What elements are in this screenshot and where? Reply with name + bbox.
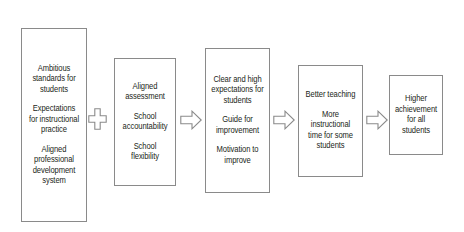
text-line: Higher	[392, 94, 440, 105]
text-line: Aligned	[24, 145, 84, 156]
text-line: Clear and high	[208, 75, 267, 86]
node-body: Ambitious standards for students Expecta…	[22, 64, 86, 187]
text-line: system	[24, 176, 84, 187]
text-group: School flexibility	[115, 142, 175, 163]
diagram-canvas: Ambitious standards for students Expecta…	[0, 0, 464, 232]
text-group: School accountability	[115, 112, 175, 133]
text-group: Aligned assessment	[115, 82, 175, 103]
arrow-connector-right-3	[366, 110, 388, 130]
clear-expectations-box: Clear and high expectations for students…	[205, 48, 270, 193]
text-line: students	[392, 126, 440, 137]
node-body: Higher achievement for all students	[390, 94, 442, 136]
text-line: practice	[24, 125, 84, 136]
node-body: Aligned assessment School accountability…	[115, 82, 175, 163]
text-line: accountability	[117, 122, 173, 133]
text-line: instructional	[301, 120, 360, 131]
text-line: achievement	[392, 105, 440, 116]
text-group: Motivation to improve	[206, 145, 269, 166]
node-body: Clear and high expectations for students…	[206, 75, 269, 167]
plus-connector	[88, 108, 107, 130]
text-group: Expectations for instructional practice	[22, 104, 86, 136]
text-line: Motivation to	[208, 145, 267, 156]
text-line: Better teaching	[301, 90, 360, 101]
text-group: Ambitious standards for students	[22, 64, 86, 96]
text-group: Clear and high expectations for students	[206, 75, 269, 107]
text-line: students	[208, 96, 267, 107]
text-line: expectations for	[208, 85, 267, 96]
text-line: for instructional	[24, 115, 84, 126]
text-line: Guide for	[208, 115, 267, 126]
text-line: School	[117, 112, 173, 123]
text-line: time for some	[301, 131, 360, 142]
text-line: standards for	[24, 74, 84, 85]
text-line: development	[24, 166, 84, 177]
arrow-connector-right-2	[273, 110, 295, 130]
text-line: professional	[24, 155, 84, 166]
text-line: flexibility	[117, 152, 173, 163]
text-group: Higher achievement for all students	[390, 94, 442, 136]
text-line: Expectations	[24, 104, 84, 115]
text-line: School	[117, 142, 173, 153]
text-line: students	[301, 141, 360, 152]
text-group: Aligned professional development system	[22, 145, 86, 187]
text-line: assessment	[117, 92, 173, 103]
text-line: improvement	[208, 126, 267, 137]
better-teaching-box: Better teaching More instructional time …	[298, 65, 363, 177]
text-group: More instructional time for some student…	[299, 110, 362, 152]
text-group: Guide for improvement	[206, 115, 269, 136]
text-line: students	[24, 85, 84, 96]
text-line: Aligned	[117, 82, 173, 93]
text-line: for all	[392, 115, 440, 126]
node-body: Better teaching More instructional time …	[299, 90, 362, 152]
text-line: More	[301, 110, 360, 121]
text-group: Better teaching	[299, 90, 362, 101]
arrow-connector-right-1	[180, 110, 202, 130]
higher-achievement-box: Higher achievement for all students	[389, 75, 443, 155]
text-line: Ambitious	[24, 64, 84, 75]
text-line: improve	[208, 156, 267, 167]
ambitious-standards-box: Ambitious standards for students Expecta…	[21, 28, 87, 222]
aligned-assessment-box: Aligned assessment School accountability…	[114, 58, 176, 186]
